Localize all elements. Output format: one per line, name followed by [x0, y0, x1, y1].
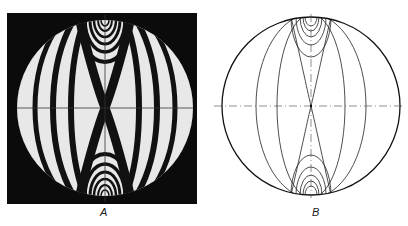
panel-b-drawing: B	[204, 0, 408, 226]
figure: A	[0, 0, 408, 226]
fringe-drawing	[204, 0, 408, 226]
panel-a-label: A	[100, 206, 107, 218]
panel-a-photograph: A	[0, 0, 204, 226]
panel-b-label: B	[312, 206, 319, 218]
fringe-photo	[0, 0, 204, 226]
